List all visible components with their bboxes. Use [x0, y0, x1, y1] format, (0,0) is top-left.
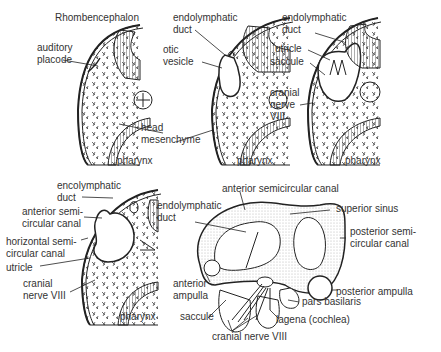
label-endolymphatic-duct-3a: endolymphatic [282, 12, 346, 24]
label-horizontal-canal-4b: circular canal [6, 248, 65, 260]
label-endolymphatic-duct-3b: duct [282, 24, 301, 36]
label-endolymphatic-duct-4a: encolymphatic [57, 180, 121, 192]
label-utricle-4: utricle [6, 262, 33, 274]
label-endolymphatic-duct-2b: duct [173, 24, 192, 36]
label-pharynx-1: pharynx [117, 155, 153, 167]
label-lagena: lagena (cochlea) [276, 314, 350, 326]
label-endolymphatic-duct-5a: endolymphatic [157, 200, 221, 212]
label-auditory-placode-1: auditory [37, 42, 73, 54]
label-pharynx-2: pharynx [237, 155, 273, 167]
label-auditory-placode-2: placode [37, 54, 72, 66]
label-anterior-canal-4a: anterior semi- [22, 206, 83, 218]
label-endolymphatic-duct-4b: duct [57, 192, 76, 204]
label-posterior-canal-1: posterior semi- [350, 226, 416, 238]
panel-labyrinth [198, 202, 345, 332]
label-head-mesenchyme-1: head [141, 122, 163, 134]
label-posterior-canal-2: circular canal [350, 238, 409, 250]
label-rhombencephalon: Rhombencephalon [55, 12, 139, 24]
label-endolymphatic-duct-5b: duct [157, 212, 176, 224]
label-saccule-5: saccule [180, 311, 214, 323]
label-pharynx-4: pharynx [120, 311, 156, 323]
label-pars-basilaris: pars basilaris [302, 296, 361, 308]
label-horizontal-canal-4a: horizontal semi- [6, 236, 77, 248]
label-cranial-nerve-3a: cranial [270, 87, 299, 99]
label-anterior-canal-4b: circular canal [22, 218, 81, 230]
label-anterior-semicircular-canal: anterior semicircular canal [222, 183, 339, 195]
label-endolymphatic-duct-2a: endolymphatic [173, 12, 237, 24]
label-head-mesenchyme-2: mesenchyme [141, 134, 200, 146]
label-cranial-nerve-3b: nerve [270, 99, 295, 111]
label-pharynx-3: pharynx [345, 155, 381, 167]
label-cranial-nerve-4a: cranial [23, 278, 52, 290]
label-otic-vesicle-2: vesicle [163, 56, 194, 68]
label-cranial-nerve-4b: nerve VIII [23, 290, 66, 302]
label-superior-sinus: superior sinus [336, 203, 398, 215]
panel-stage4 [82, 190, 161, 325]
label-saccule-3: saccule [270, 56, 304, 68]
label-cranial-nerve-viii: cranial nerve VIII [212, 331, 287, 343]
label-anterior-ampulla-2: ampulla [173, 290, 208, 302]
panel-stage3 [308, 18, 381, 165]
label-cranial-nerve-3c: VIII [270, 111, 285, 123]
label-otic-vesicle-1: otic [163, 44, 179, 56]
label-anterior-ampulla-1: anterior [173, 278, 207, 290]
label-utricle-3: utricle [275, 43, 302, 55]
